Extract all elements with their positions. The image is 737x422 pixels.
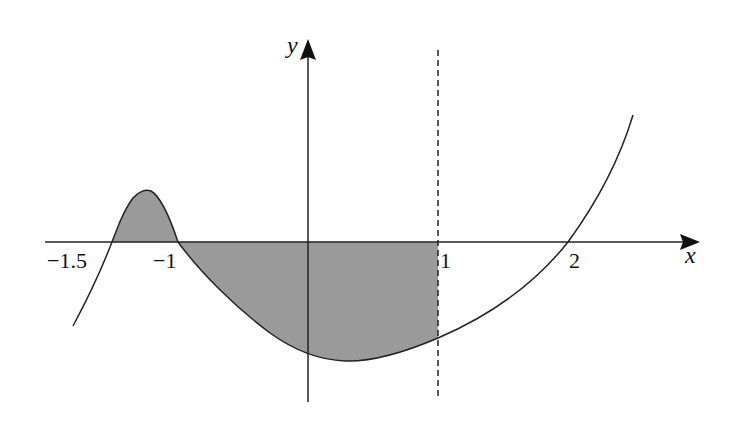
tick-label-neg-1: −1 (153, 248, 176, 273)
y-axis-label: y (285, 32, 298, 58)
tick-label-1: 1 (440, 248, 451, 273)
tick-label-neg-1-5: −1.5 (47, 248, 87, 273)
tick-label-2: 2 (569, 248, 580, 273)
y-axis-arrow-icon (300, 39, 316, 60)
function-graph: y x −1.5 −1 1 2 (0, 0, 737, 422)
x-axis-label: x (684, 242, 696, 268)
